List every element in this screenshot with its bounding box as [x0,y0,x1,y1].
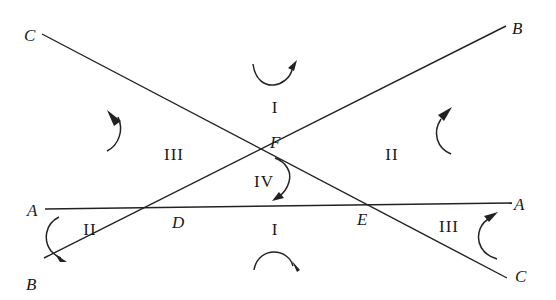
label-e: E [356,210,368,229]
line-c [42,34,507,278]
region-i-top: I [272,98,279,117]
region-ii-bottom-left: II [83,220,96,239]
rotation-arrow-icon [436,107,452,154]
label-a-right: A [513,195,525,214]
line-a [45,203,512,209]
rotation-arrow-icon [107,110,121,151]
region-iii-bottom-right: III [439,217,459,236]
region-i-bottom: I [272,220,279,239]
region-iv-inner: IV [254,172,274,191]
label-c-right: C [515,267,527,286]
label-f: F [269,133,281,152]
label-c-left: C [24,26,36,45]
region-iii-left: III [164,145,184,164]
region-ii-right: II [385,145,398,164]
label-a-left: A [26,201,38,220]
rotation-arrow-icon [253,60,297,85]
label-d: D [171,213,185,232]
triangle-diagram: A A B B C C D E F I II III IV I II III [0,0,556,300]
rotation-arrow-icon [254,252,300,272]
rotation-arrow-icon [272,158,290,201]
label-b-left: B [26,275,37,294]
rotation-arrow-icon [479,212,498,259]
label-b-right: B [512,19,523,38]
